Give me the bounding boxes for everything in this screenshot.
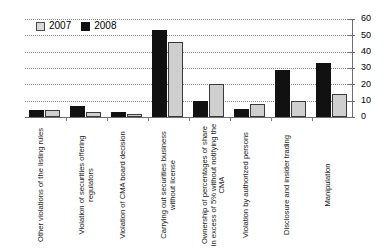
x-separator-tick-3 [148, 117, 149, 121]
legend-label-2007: 2007 [49, 21, 71, 31]
y-tick-label-30: 30 [361, 63, 371, 72]
plot-area [25, 19, 352, 117]
bar-2007-6 [291, 101, 306, 117]
y-tick-label-50: 50 [361, 31, 371, 40]
bar-group-0 [29, 19, 61, 117]
legend-item-2007: 2007 [36, 21, 71, 31]
legend-swatch-2007-icon [36, 22, 45, 31]
bar-2007-4 [209, 84, 224, 117]
y-tick-label-20: 20 [361, 80, 371, 89]
y-tick-label-10: 10 [361, 96, 371, 105]
y-tick-label-40: 40 [361, 47, 371, 56]
legend-label-2008: 2008 [94, 21, 116, 31]
x-separator-tick-1 [66, 117, 67, 121]
bar-2007-3 [168, 42, 183, 117]
x-separator-tick-5 [230, 117, 231, 121]
bar-2007-5 [250, 104, 265, 117]
bar-2007-1 [86, 112, 101, 117]
x-label-7: Manipulation [324, 122, 338, 248]
x-separator-tick-4 [189, 117, 190, 121]
bar-2008-4 [193, 101, 208, 117]
legend-item-2008: 2008 [81, 21, 116, 31]
bar-2007-2 [127, 114, 142, 117]
bar-2008-0 [29, 110, 44, 117]
chart-legend: 2007 2008 [36, 21, 117, 31]
x-label-6: Disclosure and insider trading [283, 122, 297, 248]
bar-group-7 [316, 19, 348, 117]
x-label-5: Violation by authorized persons [242, 122, 256, 248]
y-tick-50 [348, 35, 355, 36]
y-tick-30 [348, 68, 355, 69]
bar-group-3 [152, 19, 184, 117]
x-label-0: Other violations of the listing rules [37, 122, 51, 248]
bar-2007-0 [45, 110, 60, 117]
bar-2007-7 [332, 94, 347, 117]
bar-group-4 [193, 19, 225, 117]
bar-group-5 [234, 19, 266, 117]
bar-2008-3 [152, 30, 167, 117]
y-tick-label-60: 60 [361, 14, 371, 23]
y-tick-60 [348, 19, 355, 20]
legend-swatch-2008-icon [81, 22, 90, 31]
x-separator-tick-2 [107, 117, 108, 121]
y-tick-20 [348, 84, 355, 85]
bar-group-1 [70, 19, 102, 117]
y-tick-40 [348, 52, 355, 53]
x-label-2: Violation of CMA board decision [119, 122, 133, 248]
bar-2008-7 [316, 63, 331, 117]
x-label-3: Carrying out securities business without… [160, 122, 174, 248]
bar-group-2 [111, 19, 143, 117]
bar-2008-6 [275, 70, 290, 117]
y-tick-10 [348, 101, 355, 102]
bar-2008-5 [234, 109, 249, 117]
bar-chart: 60 50 40 30 20 10 0 2007 2008 Other viol… [0, 0, 387, 251]
x-separator-tick-6 [271, 117, 272, 121]
bar-2008-2 [111, 112, 126, 117]
bar-group-6 [275, 19, 307, 117]
x-label-4: Ownership of percentages of share in exc… [201, 122, 215, 248]
x-axis-labels: Other violations of the listing rules Vi… [25, 122, 352, 250]
y-tick-label-0: 0 [361, 112, 366, 121]
x-separator-tick-7 [312, 117, 313, 121]
x-label-1: Violation of securities offering regulat… [78, 122, 92, 248]
y-tick-0 [348, 117, 355, 118]
bar-2008-1 [70, 106, 85, 117]
